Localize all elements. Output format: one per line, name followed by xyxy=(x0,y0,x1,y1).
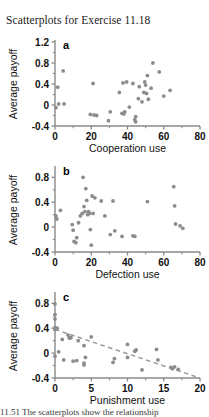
x-tick-label: 15 xyxy=(158,383,170,394)
panel-c-svg: -0.400.40.805101520Punishment useAverage… xyxy=(0,286,209,406)
data-point xyxy=(84,187,88,191)
data-point xyxy=(74,241,78,245)
data-point xyxy=(83,210,87,214)
data-point xyxy=(126,343,130,347)
data-point xyxy=(91,82,95,86)
data-point xyxy=(134,348,138,352)
data-point xyxy=(95,114,99,118)
y-tick-label: -0.4 xyxy=(32,373,50,384)
data-point xyxy=(146,74,150,78)
bottom-caption-text: 11.51 The scatterplots show the relation… xyxy=(0,408,209,417)
x-tick-label: 5 xyxy=(88,383,94,394)
x-tick-label: 80 xyxy=(194,257,206,268)
data-point xyxy=(172,185,176,189)
y-tick-label: 0.8 xyxy=(35,298,49,309)
data-point xyxy=(120,235,124,239)
panel-c-points xyxy=(53,302,180,372)
data-point xyxy=(55,217,59,221)
data-point xyxy=(54,106,58,110)
data-point xyxy=(136,97,140,101)
x-tick-label: 20 xyxy=(86,257,98,268)
y-tick-label: 0 xyxy=(43,348,49,359)
data-point xyxy=(62,102,66,106)
x-tick-label: 60 xyxy=(158,131,170,142)
data-point xyxy=(174,222,178,226)
scatterplot-panel-b: -0.400.40.8020406080Defection useAverage… xyxy=(0,160,209,280)
x-tick-label: 0 xyxy=(52,131,58,142)
data-point xyxy=(61,69,65,73)
data-point xyxy=(71,228,75,232)
data-point xyxy=(134,115,138,119)
data-point xyxy=(99,199,103,203)
data-point xyxy=(89,335,93,339)
data-point xyxy=(131,82,135,86)
data-point xyxy=(107,119,111,123)
y-tick-label: 0 xyxy=(43,222,49,233)
panel-c-axes: -0.400.40.805101520Punishment useAverage… xyxy=(7,292,206,406)
data-point xyxy=(69,336,73,340)
data-point xyxy=(113,229,117,233)
data-point xyxy=(176,367,180,371)
y-tick-label: 0.8 xyxy=(35,172,49,183)
y-tick-label: 0.4 xyxy=(35,197,49,208)
y-tick-label: 0.8 xyxy=(35,58,49,69)
data-point xyxy=(127,105,131,109)
y-tick-label: -0.4 xyxy=(32,121,50,132)
data-point xyxy=(123,110,127,114)
x-tick-label: 0 xyxy=(52,257,58,268)
data-point xyxy=(134,120,138,124)
data-point xyxy=(84,356,88,360)
data-point xyxy=(117,91,121,95)
data-point xyxy=(108,233,112,237)
data-point xyxy=(88,113,92,117)
x-tick-label: 80 xyxy=(194,131,206,142)
data-point xyxy=(103,214,107,218)
data-point xyxy=(70,223,74,227)
y-axis-title: Average payoff xyxy=(7,175,19,245)
x-tick-label: 40 xyxy=(122,257,134,268)
y-tick-label: 0 xyxy=(43,100,49,111)
x-tick-label: 20 xyxy=(194,383,206,394)
data-point xyxy=(56,85,60,89)
x-tick-label: 40 xyxy=(122,131,134,142)
data-point xyxy=(146,200,150,204)
data-point xyxy=(57,102,61,106)
data-point xyxy=(59,208,63,212)
scatterplot-panel-a: -0.400.40.81.2020406080Cooperation useAv… xyxy=(0,34,209,154)
bottom-caption: 11.51 The scatterplots show the relation… xyxy=(0,408,209,417)
panel-b-letter: b xyxy=(63,165,70,177)
page-title: Scatterplots for Exercise 11.18 xyxy=(6,14,150,26)
y-tick-label: 0.4 xyxy=(35,323,49,334)
panel-a-axes: -0.400.40.81.2020406080Cooperation useAv… xyxy=(7,37,206,155)
y-axis-title: Average payoff xyxy=(7,49,19,119)
y-tick-label: 1.2 xyxy=(35,37,49,48)
data-point xyxy=(62,358,66,362)
panel-b-points xyxy=(54,175,185,247)
data-point xyxy=(121,81,125,85)
data-point xyxy=(133,235,137,239)
data-point xyxy=(53,313,57,317)
data-point xyxy=(149,86,153,90)
data-point xyxy=(55,326,59,330)
data-point xyxy=(75,359,79,363)
data-point xyxy=(157,70,161,74)
data-point xyxy=(125,80,129,84)
data-point xyxy=(91,212,95,216)
data-point xyxy=(155,347,159,351)
data-point xyxy=(173,204,177,208)
data-point xyxy=(93,196,97,200)
data-point xyxy=(111,199,115,203)
panel-a-points xyxy=(54,61,172,124)
y-axis-title: Average payoff xyxy=(7,301,19,371)
data-point xyxy=(111,361,115,365)
data-point xyxy=(88,228,92,232)
data-point xyxy=(81,175,85,179)
data-point xyxy=(137,85,141,89)
data-point xyxy=(82,344,86,348)
data-point xyxy=(156,358,160,362)
data-point xyxy=(88,212,92,216)
data-point xyxy=(146,97,150,101)
panel-b-svg: -0.400.40.8020406080Defection useAverage… xyxy=(0,160,209,280)
data-point xyxy=(173,365,177,369)
data-point xyxy=(82,205,86,209)
